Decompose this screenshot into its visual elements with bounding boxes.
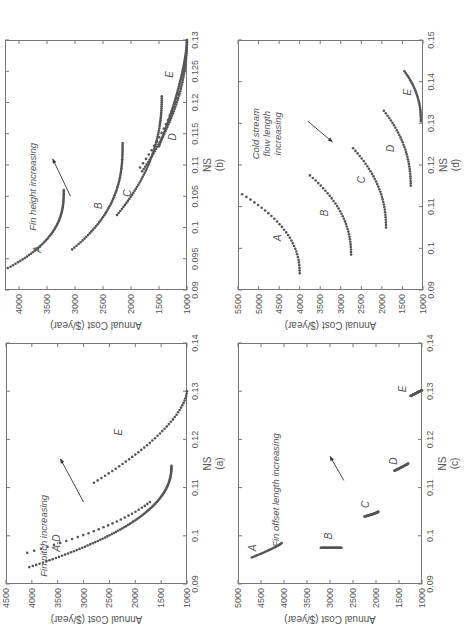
data-point (296, 253, 299, 256)
data-point (71, 248, 74, 251)
data-point (349, 238, 352, 241)
data-point (264, 209, 267, 212)
data-point (245, 196, 248, 199)
series-b (320, 547, 343, 550)
data-point (409, 182, 412, 185)
annotation-text: Fin height increasing (27, 142, 38, 230)
data-point (394, 127, 397, 130)
data-point (285, 231, 288, 234)
data-point (332, 200, 335, 203)
x-tick-label: 0.105 (190, 185, 200, 208)
data-point (180, 85, 183, 88)
data-point (84, 545, 87, 548)
data-point (349, 243, 352, 246)
y-tick-label: 2000 (377, 294, 387, 314)
data-point (408, 168, 411, 171)
data-point (156, 140, 159, 143)
data-point (381, 196, 384, 199)
series-c (352, 147, 388, 229)
data-point (346, 225, 349, 228)
panel-d: 0.090.10.110.120.130.140.151000150020002… (238, 40, 472, 290)
data-point (97, 528, 100, 531)
data-point (407, 462, 410, 465)
y-tick-label: 4500 (256, 588, 266, 608)
data-point (391, 122, 394, 125)
y-tick-label: 2000 (130, 588, 140, 608)
series-b (309, 174, 353, 256)
chart-svg: 0.090.10.110.120.130.1410001500200025003… (238, 343, 467, 584)
data-point (181, 404, 184, 407)
data-point (298, 267, 301, 270)
data-point (93, 530, 96, 533)
y-tick-label: 1500 (394, 588, 404, 608)
data-point (328, 195, 331, 198)
data-point (148, 159, 151, 162)
data-point (131, 456, 134, 459)
data-point (383, 110, 386, 113)
data-point (405, 153, 408, 156)
data-point (270, 215, 273, 218)
data-point (385, 112, 388, 115)
data-point (89, 543, 92, 546)
y-tick-label: 1500 (397, 294, 407, 314)
data-point (366, 165, 369, 168)
data-point (295, 250, 298, 253)
data-point (273, 217, 276, 220)
series-label: A-D (51, 534, 62, 552)
data-point (292, 242, 295, 245)
x-tick-label: 0.14 (425, 334, 435, 352)
data-point (283, 228, 286, 231)
data-point (407, 160, 410, 163)
y-tick-label: 3000 (79, 588, 89, 608)
data-point (77, 536, 80, 539)
annotation-text: Cold stream (250, 108, 261, 159)
x-tick-label: 0.13 (426, 115, 436, 133)
data-point (102, 526, 105, 529)
data-point (71, 538, 74, 541)
data-point (317, 182, 320, 185)
data-point (94, 541, 97, 544)
chart-svg: 0.090.10.110.120.130.1410001500200025003… (6, 343, 232, 584)
data-point (322, 187, 325, 190)
data-point (399, 136, 402, 139)
data-point (168, 423, 171, 426)
data-point (82, 534, 85, 537)
data-point (368, 168, 371, 171)
data-point (339, 210, 342, 213)
data-point (371, 173, 374, 176)
data-point (107, 472, 110, 475)
data-point (175, 413, 178, 416)
y-tick-label: 5000 (254, 294, 264, 314)
data-point (375, 180, 378, 183)
series-label: D (167, 133, 178, 140)
data-point (340, 212, 343, 215)
data-point (344, 220, 347, 223)
data-point (390, 119, 393, 122)
data-point (107, 524, 110, 527)
data-point (97, 540, 100, 543)
series-c (363, 510, 379, 517)
data-point (385, 226, 388, 229)
data-point (145, 163, 148, 166)
data-point (179, 90, 182, 93)
data-point (384, 208, 387, 211)
data-point (356, 152, 359, 155)
plot-frame (7, 344, 187, 584)
data-point (166, 425, 169, 428)
series-label: E (397, 385, 408, 392)
y-tick-label: 3500 (302, 588, 312, 608)
series-label: C (356, 175, 367, 183)
data-point (340, 547, 343, 550)
data-point (385, 221, 388, 224)
data-point (408, 163, 411, 166)
data-point (267, 212, 270, 215)
y-tick-label: 1500 (154, 294, 164, 314)
panel-caption: (d) (450, 159, 461, 171)
data-point (290, 239, 293, 242)
x-axis-label: NS (438, 158, 449, 172)
data-point (185, 392, 188, 395)
x-tick-label: 0.14 (426, 73, 436, 91)
data-point (350, 248, 353, 251)
data-point (75, 245, 78, 248)
y-tick-label: 5500 (233, 294, 243, 314)
